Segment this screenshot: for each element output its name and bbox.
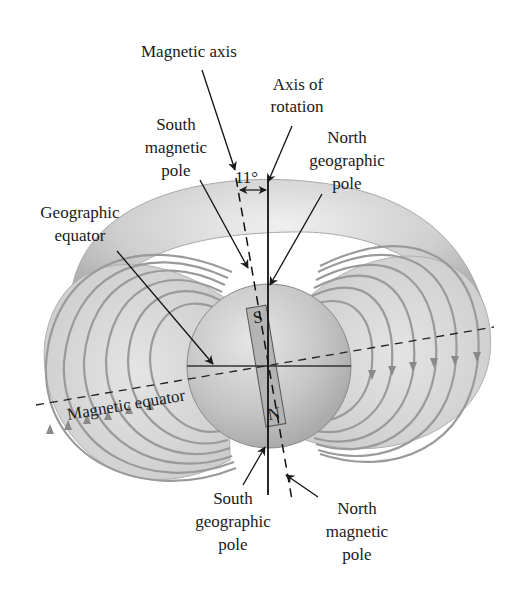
angle-label: 11° [235, 168, 258, 187]
label-south-geographic-pole-1: South [213, 489, 253, 508]
rotation-axis-arrow [268, 126, 292, 182]
label-south-magnetic-pole-2: magnetic [145, 138, 208, 157]
label-axis-of-rotation-2: rotation [271, 97, 324, 116]
label-south-magnetic-pole-1: South [156, 115, 196, 134]
label-north-geographic-pole-1: North [327, 128, 367, 147]
label-north-magnetic-pole-2: magnetic [326, 522, 389, 541]
label-north-magnetic-pole-3: pole [342, 545, 371, 564]
label-geographic-equator-1: Geographic [40, 203, 120, 222]
label-south-magnetic-pole-3: pole [161, 161, 190, 180]
label-magnetic-axis: Magnetic axis [141, 42, 237, 61]
magnetic-field-diagram: S N 11° Magnetic axis Axis of rotation S… [0, 0, 524, 603]
label-axis-of-rotation-1: Axis of [273, 75, 324, 94]
south-geographic-pole-arrow [243, 447, 265, 485]
label-geographic-equator-2: equator [55, 226, 106, 245]
label-south-geographic-pole-2: geographic [195, 512, 271, 531]
label-north-magnetic-pole-1: North [337, 499, 377, 518]
label-south-geographic-pole-3: pole [218, 535, 247, 554]
label-north-geographic-pole-3: pole [332, 174, 361, 193]
label-north-geographic-pole-2: geographic [309, 151, 385, 170]
